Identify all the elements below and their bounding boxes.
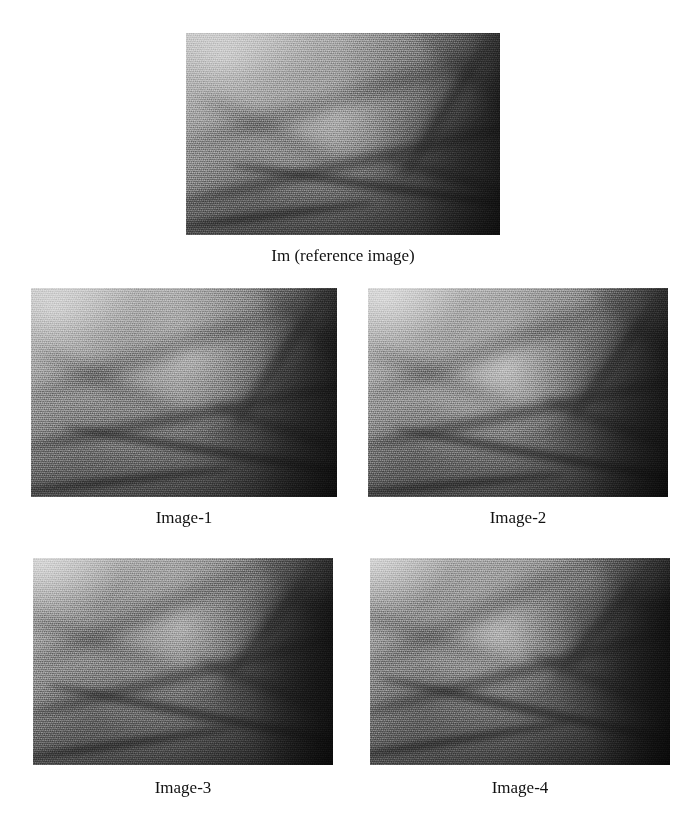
- image-2-texture: [368, 288, 668, 497]
- image-2-panel: [368, 288, 668, 497]
- image-1-panel: [31, 288, 337, 497]
- figure-panel-grid: Im (reference image) Image-1: [0, 0, 699, 833]
- image-4-texture: [370, 558, 670, 765]
- image-1-texture: [31, 288, 337, 497]
- image-3-texture: [33, 558, 333, 765]
- reference-image-panel: [186, 33, 500, 235]
- image-4-caption: Image-4: [370, 779, 670, 796]
- image-2-caption: Image-2: [368, 509, 668, 526]
- image-4-panel: [370, 558, 670, 765]
- image-3-panel: [33, 558, 333, 765]
- reference-image-texture: [186, 33, 500, 235]
- image-3-caption: Image-3: [33, 779, 333, 796]
- reference-image-caption: Im (reference image): [186, 247, 500, 264]
- image-1-caption: Image-1: [31, 509, 337, 526]
